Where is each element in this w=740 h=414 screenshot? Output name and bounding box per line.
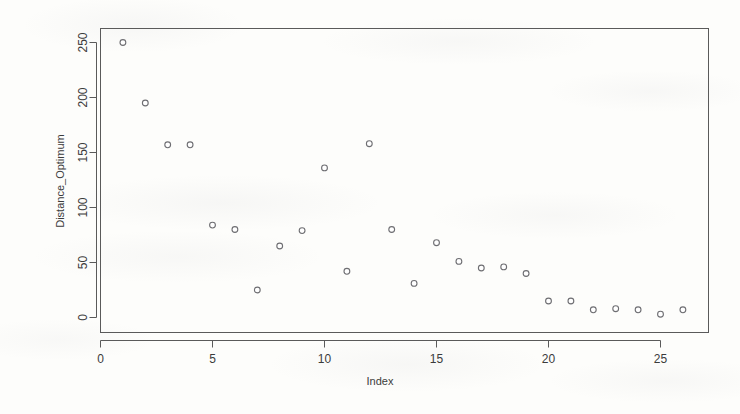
data-point [165,142,171,148]
data-point [613,306,619,312]
x-tick-label-20: 20 [542,352,556,366]
data-point [523,271,529,277]
data-point [389,227,395,233]
data-point-series [120,40,686,318]
data-point [366,141,372,147]
x-tick-label-15: 15 [430,352,444,366]
data-point [344,268,350,274]
data-point [411,281,417,287]
data-point [501,264,507,270]
y-tick-label-0: 0 [76,314,90,321]
data-point [187,142,193,148]
y-tick-label-200: 200 [76,87,90,107]
x-tick-label-0: 0 [97,352,104,366]
data-point [680,307,686,313]
x-axis: 0510152025 Index [97,341,667,388]
data-point [568,298,574,304]
plot-canvas: 050100150200250 Distance_Optimum 0510152… [0,0,740,414]
y-tick-labels: 050100150200250 [76,32,90,321]
data-point [210,222,216,228]
data-point [142,100,148,106]
data-point [232,227,238,233]
y-axis-title: Distance_Optimum [54,134,66,228]
y-tick-label-250: 250 [76,32,90,52]
x-tick-labels: 0510152025 [97,352,667,366]
data-point [254,287,260,293]
y-tick-label-100: 100 [76,197,90,217]
data-point [456,259,462,265]
data-point [546,298,552,304]
x-tick-label-5: 5 [209,352,216,366]
x-axis-title: Index [367,375,394,387]
data-point [322,165,328,171]
data-point [590,307,596,313]
y-tick-label-50: 50 [76,256,90,270]
data-point [277,243,283,249]
data-point [299,228,305,234]
y-tick-label-150: 150 [76,142,90,162]
data-point [635,307,641,313]
data-point [434,240,440,246]
data-point [478,265,484,271]
y-tick-marks [90,43,97,318]
scatter-plot-figure: 050100150200250 Distance_Optimum 0510152… [0,0,740,414]
x-tick-marks [101,341,661,348]
x-tick-label-25: 25 [654,352,668,366]
plot-frame-box [101,29,709,333]
data-point [658,311,664,317]
data-point [120,40,126,46]
y-axis: 050100150200250 Distance_Optimum [54,32,97,321]
x-tick-label-10: 10 [318,352,332,366]
